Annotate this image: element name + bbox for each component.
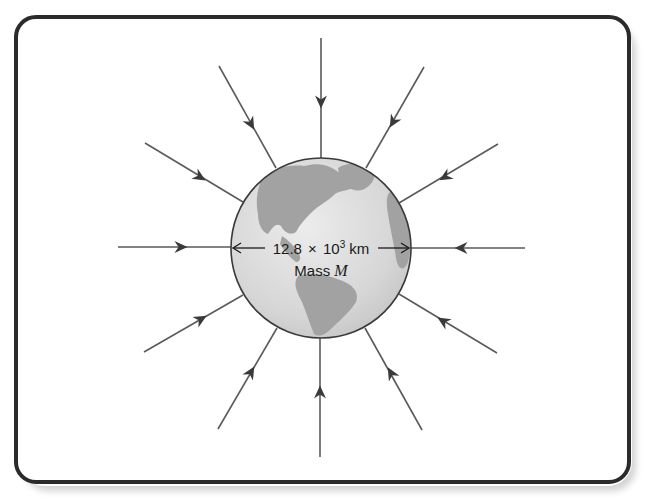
gravity-field-diagram: 12.8 × 103km Mass M bbox=[0, 0, 664, 502]
field-line-lower-right bbox=[365, 328, 422, 430]
field-line-right-upper bbox=[399, 144, 498, 203]
field-line-upper-left bbox=[219, 66, 276, 168]
field-line-right-lower bbox=[399, 294, 497, 353]
arrowhead-icon bbox=[192, 316, 206, 328]
field-line-upper-right bbox=[366, 67, 424, 168]
diameter-label: 12.8 × 103km bbox=[273, 239, 370, 257]
field-line-left-upper bbox=[145, 143, 243, 202]
field-line-left-lower bbox=[144, 295, 243, 352]
arrowhead-icon bbox=[191, 169, 205, 181]
earth-globe: 12.8 × 103km Mass M bbox=[231, 158, 413, 338]
field-line-lower-left bbox=[218, 328, 277, 429]
arrowhead-icon bbox=[439, 169, 453, 181]
mass-label: Mass M bbox=[294, 262, 349, 279]
